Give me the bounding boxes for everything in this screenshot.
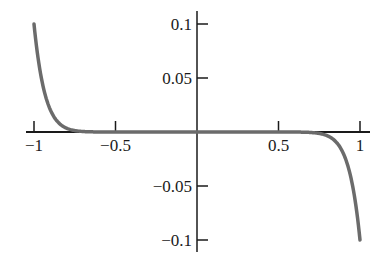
x-tick-label: 0.5 bbox=[268, 136, 289, 155]
x-ticks: −1−0.50.51 bbox=[25, 121, 364, 155]
x-tick-label: 1 bbox=[356, 136, 365, 155]
y-tick-label: 0.1 bbox=[171, 15, 192, 34]
y-tick-label: −0.1 bbox=[161, 231, 192, 250]
x-tick-label: −1 bbox=[25, 136, 43, 155]
y-tick-label: 0.05 bbox=[162, 69, 192, 88]
x-tick-label: −0.5 bbox=[100, 136, 131, 155]
y-tick-label: −0.05 bbox=[153, 177, 192, 196]
line-chart: −1−0.50.51 0.10.05−0.05−0.1 bbox=[0, 0, 387, 269]
